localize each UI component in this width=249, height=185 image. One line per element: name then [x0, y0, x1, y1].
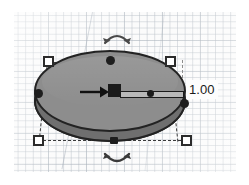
edge-handle-left[interactable]: [34, 89, 43, 98]
dimension-slider[interactable]: [108, 83, 184, 101]
arrow-right-icon: [80, 85, 110, 99]
edge-handle-right[interactable]: [180, 99, 189, 108]
slider-knob[interactable]: [147, 90, 154, 97]
rotate-arrow-icon-bottom[interactable]: [100, 150, 134, 170]
square-handle-icon[interactable]: [108, 84, 121, 97]
editor-canvas[interactable]: 1.00: [0, 0, 249, 185]
dimension-value[interactable]: 1.00: [186, 80, 218, 99]
scale-handle-top-left[interactable]: [43, 56, 54, 67]
leader-line: [182, 60, 183, 78]
edge-handle-top[interactable]: [106, 56, 115, 65]
edge-handle-bottom[interactable]: [110, 137, 118, 144]
scale-handle-bottom-left[interactable]: [33, 135, 44, 146]
rotate-arrow-icon-top[interactable]: [100, 27, 134, 47]
scale-handle-top-right[interactable]: [165, 56, 176, 67]
scale-handle-bottom-right[interactable]: [181, 135, 192, 146]
